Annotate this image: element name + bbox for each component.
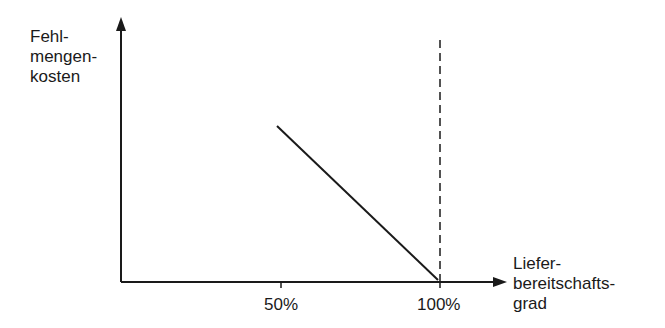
tick-label-50: 50% <box>264 295 298 315</box>
y-axis-label: Fehl- mengen- kosten <box>30 27 97 87</box>
cost-curve <box>277 126 438 280</box>
x-axis-arrow-icon <box>493 277 507 287</box>
y-axis-arrow-icon <box>116 17 126 31</box>
x-axis-label: Liefer- bereitschafts- grad <box>513 254 615 314</box>
tick-label-100: 100% <box>417 295 460 315</box>
